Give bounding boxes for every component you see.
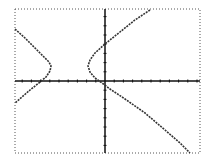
left-branch bbox=[15, 29, 51, 103]
graph-screen bbox=[0, 0, 211, 166]
axes bbox=[15, 9, 200, 153]
